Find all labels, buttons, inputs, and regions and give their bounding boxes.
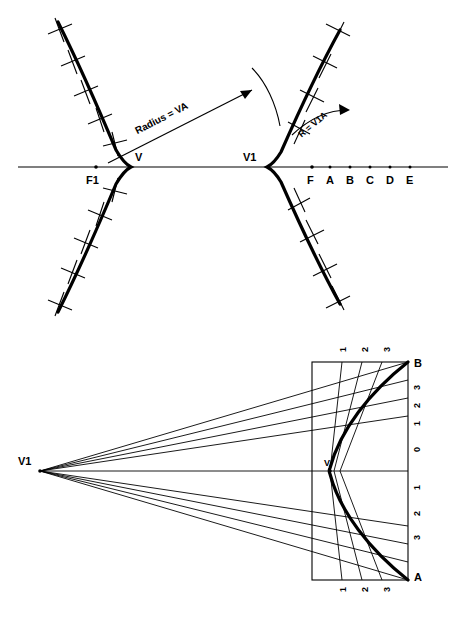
label-r-v1a: R = V1A (296, 109, 329, 139)
label-V1: V1 (243, 151, 256, 163)
right-tick-2a: 2 (412, 403, 422, 408)
right-tick-2b: 2 (412, 511, 422, 516)
right-tick-1a: 1 (412, 421, 422, 426)
label-V: V (135, 151, 143, 163)
label-F: F (307, 174, 314, 186)
focus-right-point (310, 165, 314, 169)
right-tick-3a: 3 (412, 385, 422, 390)
label-A: A (326, 174, 334, 186)
apex-point (38, 469, 42, 473)
top-tick-3: 3 (382, 347, 392, 352)
label-D: D (386, 174, 394, 186)
radius-leader-line (108, 90, 252, 163)
top-tick-labels: 1 2 3 (338, 347, 392, 352)
parabola-ray-figure: V1 V B A 1 2 3 3 2 1 0 1 2 3 1 (18, 347, 422, 592)
bottom-tick-labels: 1 2 3 (338, 587, 392, 592)
top-tick-1: 1 (338, 347, 348, 352)
label-corner-B: B (414, 357, 422, 369)
focus-left-point (94, 165, 98, 169)
label-F1: F1 (86, 174, 99, 186)
label-corner-A: A (414, 571, 422, 583)
technical-drawing: F1 V V1 F A B C D E Radius = VA R = V1A (0, 0, 466, 622)
label-radius-va: Radius = VA (133, 100, 190, 136)
top-tick-2: 2 (360, 347, 370, 352)
parabola-vertex-point (328, 469, 332, 473)
label-V1-apex: V1 (18, 455, 31, 467)
label-B: B (346, 174, 354, 186)
label-E: E (406, 174, 413, 186)
bottom-tick-3: 3 (382, 587, 392, 592)
label-C: C (366, 174, 374, 186)
label-V-vertex: V (324, 458, 330, 468)
right-tick-0: 0 (412, 447, 422, 452)
bottom-tick-1: 1 (338, 587, 348, 592)
hyperbola-construction-figure: F1 V V1 F A B C D E Radius = VA R = V1A (18, 18, 448, 316)
construction-arc-right (252, 68, 280, 126)
right-tick-labels: 3 2 1 0 1 2 3 (412, 385, 422, 540)
bottom-tick-2: 2 (360, 587, 370, 592)
diagram-page: F1 V V1 F A B C D E Radius = VA R = V1A (0, 0, 466, 622)
right-tick-3b: 3 (412, 535, 422, 540)
right-tick-1b: 1 (412, 485, 422, 490)
